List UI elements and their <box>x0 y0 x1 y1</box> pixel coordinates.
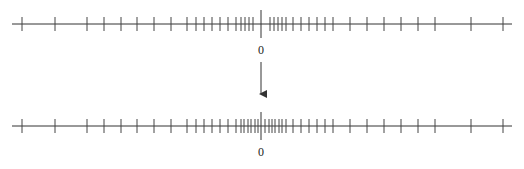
number-line-diagram: 0 0 <box>0 0 524 169</box>
bottom-origin-label: 0 <box>258 145 264 159</box>
top-number-line <box>12 10 512 38</box>
bottom-number-line <box>12 112 512 140</box>
top-origin-label: 0 <box>258 43 264 57</box>
